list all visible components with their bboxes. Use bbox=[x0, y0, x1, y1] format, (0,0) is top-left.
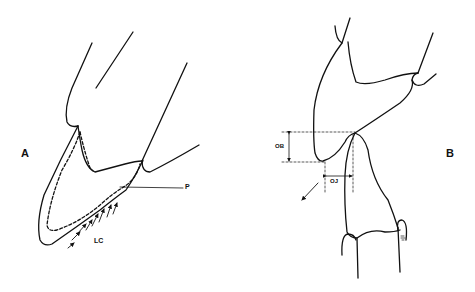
annotation-ob: OB bbox=[275, 143, 284, 149]
tooth-mark bbox=[401, 236, 405, 240]
direction-arrow bbox=[302, 183, 318, 200]
lower-incisor-outline bbox=[345, 133, 400, 238]
panel-label-b: B bbox=[446, 147, 454, 159]
lower-root-left bbox=[357, 238, 358, 278]
pulp-outline-dashed bbox=[47, 132, 140, 230]
upper-root-right bbox=[418, 33, 433, 73]
annotation-lc: LC bbox=[94, 237, 103, 244]
adjacent-gingiva bbox=[412, 74, 436, 85]
lc-force-arrows bbox=[68, 203, 117, 248]
panel-a-drawing bbox=[39, 32, 199, 248]
lower-incisor-labial bbox=[355, 133, 398, 228]
panel-b-drawing bbox=[282, 18, 436, 278]
upper-crown-lingual bbox=[348, 42, 418, 84]
panel-label-a: A bbox=[21, 147, 29, 159]
measurement-guides bbox=[282, 132, 355, 194]
lower-gingiva-left bbox=[342, 234, 356, 255]
upper-root-left bbox=[335, 18, 350, 43]
lower-root-right bbox=[398, 228, 400, 272]
annotation-oj: OJ bbox=[330, 178, 338, 184]
tooth-root-line-left bbox=[96, 32, 133, 88]
crown-lingual-outline bbox=[78, 126, 142, 172]
adjacent-tooth-outline bbox=[66, 43, 92, 127]
annotation-p: P bbox=[185, 183, 190, 190]
crown-outline bbox=[39, 126, 143, 245]
tooth-root-line-right bbox=[142, 63, 187, 161]
p-pointer-line bbox=[120, 187, 183, 188]
adjacent-tooth-line-right bbox=[142, 145, 199, 172]
dental-diagram bbox=[0, 0, 475, 292]
